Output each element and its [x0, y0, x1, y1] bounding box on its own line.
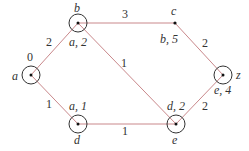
node-d: d a, 1 — [69, 99, 87, 147]
node-dot — [30, 74, 33, 77]
weight-b-c: 3 — [122, 7, 128, 21]
node-label: 0 — [27, 50, 33, 64]
node-name: e — [172, 133, 178, 147]
weight-b-e: 1 — [121, 56, 127, 70]
weight-a-d: 1 — [46, 97, 52, 111]
node-name: z — [235, 68, 241, 82]
edge-a-b — [31, 23, 78, 75]
node-a: a 0 — [12, 50, 40, 84]
node-dot — [77, 123, 80, 126]
node-label: b, 5 — [160, 32, 178, 46]
node-b: b a, 2 — [69, 1, 87, 49]
graph-diagram: 2 3 1 2 1 1 2 a 0 b a, 2 c b, 5 z e, 4 d… — [0, 0, 249, 151]
node-label: d, 2 — [167, 99, 185, 113]
weight-a-b: 2 — [46, 35, 52, 49]
node-name: a — [12, 69, 18, 83]
node-name: d — [74, 133, 81, 147]
weight-c-z: 2 — [202, 36, 208, 50]
node-name: c — [171, 4, 177, 18]
node-label: a, 2 — [69, 35, 87, 49]
node-dot — [173, 21, 176, 24]
weight-d-e: 1 — [122, 124, 128, 138]
node-c: c b, 5 — [160, 4, 178, 46]
node-label: e, 4 — [214, 83, 231, 97]
node-dot — [77, 22, 80, 25]
node-e: e d, 2 — [167, 99, 185, 147]
node-z: z e, 4 — [214, 66, 241, 97]
edge-c-z — [175, 23, 223, 75]
node-name: b — [74, 1, 80, 15]
node-dot — [222, 74, 225, 77]
node-label: a, 1 — [69, 99, 87, 113]
weight-e-z: 2 — [202, 99, 208, 113]
node-dot — [175, 123, 178, 126]
